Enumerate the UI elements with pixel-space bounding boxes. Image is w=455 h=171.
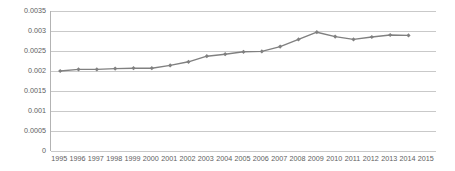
data-point-marker	[113, 67, 117, 71]
data-point-marker	[186, 60, 190, 64]
series-line-group	[51, 11, 436, 151]
plot-area	[50, 11, 435, 151]
y-axis-tick-label: 0.003	[0, 27, 46, 34]
y-axis-tick-label: 0.002	[0, 67, 46, 74]
data-point-marker	[296, 37, 300, 41]
data-point-marker	[58, 69, 62, 73]
series-markers	[58, 30, 411, 73]
data-point-marker	[351, 37, 355, 41]
y-axis-tick-label: 0.0005	[0, 127, 46, 134]
y-axis-tick-label: 0	[0, 147, 46, 154]
data-point-marker	[168, 63, 172, 67]
y-axis-tick-label: 0.001	[0, 107, 46, 114]
data-point-marker	[278, 45, 282, 49]
data-point-marker	[315, 30, 319, 34]
series-line	[60, 32, 408, 71]
data-point-marker	[205, 54, 209, 58]
data-point-marker	[150, 66, 154, 70]
x-axis-tick-labels: 1995199619971998199920002001200220032004…	[50, 155, 435, 169]
data-point-marker	[131, 66, 135, 70]
x-axis-tick-label: 2015	[406, 155, 446, 163]
line-chart: 00.00050.0010.00150.0020.00250.0030.0035…	[0, 0, 455, 171]
data-point-marker	[260, 49, 264, 53]
y-axis-tick-label: 0.0035	[0, 7, 46, 14]
data-point-marker	[333, 35, 337, 39]
data-point-marker	[388, 33, 392, 37]
data-point-marker	[406, 33, 410, 37]
data-point-marker	[241, 50, 245, 54]
data-point-marker	[76, 67, 80, 71]
y-axis-tick-label: 0.0015	[0, 87, 46, 94]
data-point-marker	[370, 35, 374, 39]
data-point-marker	[95, 67, 99, 71]
gridline	[51, 151, 436, 152]
y-axis-tick-label: 0.0025	[0, 47, 46, 54]
data-point-marker	[223, 52, 227, 56]
